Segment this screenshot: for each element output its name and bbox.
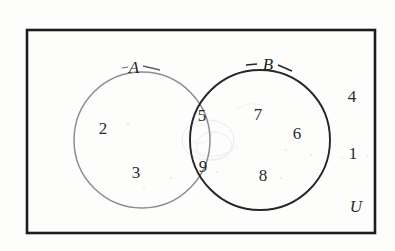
set-b-label: B	[263, 56, 273, 73]
element-label-layer: 2 3 5 9 7 6 8 4 1 A B U	[0, 0, 395, 251]
universal-set-label: U	[350, 198, 362, 215]
set-a-label: A	[129, 59, 139, 76]
element-5: 5	[198, 107, 207, 124]
element-1: 1	[349, 145, 358, 162]
element-4: 4	[348, 88, 357, 105]
element-6: 6	[293, 125, 302, 142]
element-2: 2	[99, 120, 108, 137]
element-9: 9	[199, 158, 208, 175]
element-7: 7	[254, 106, 263, 123]
element-8: 8	[259, 167, 268, 184]
element-3: 3	[132, 164, 141, 181]
venn-diagram-page: 2 3 5 9 7 6 8 4 1 A B U	[0, 0, 395, 251]
